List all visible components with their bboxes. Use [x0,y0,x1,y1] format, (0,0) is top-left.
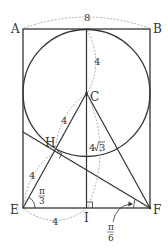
length-EH: 4 [29,170,35,181]
length-CH: 4 [61,115,67,126]
length-top-C: 4 [94,56,100,67]
point-F [149,207,151,209]
arrowhead-icon [129,202,134,207]
angle-arc-F [133,200,135,209]
angle-arc-E [29,198,35,209]
angle-E-denominator: 3 [39,196,45,206]
angle-label-F: π 6 [107,222,114,243]
angle-F-denominator: 6 [108,233,114,243]
angle-pointer-F [113,204,130,222]
label-H: H [45,136,55,150]
angle-F-numerator: π [108,222,114,232]
geometry-diagram: A B C H E F I 8 4 4 4 4 4 3 π 3 π 6 [0,0,168,252]
label-C: C [90,90,99,104]
length-CI: 4 3 [89,142,105,153]
length-CI-radicand: 3 [99,142,105,153]
length-AB: 8 [84,12,90,23]
label-B: B [153,22,162,36]
label-E: E [10,203,19,217]
angle-label-E: π 3 [38,186,45,206]
length-EI: 4 [52,216,58,227]
label-F: F [153,203,161,217]
length-CI-coef: 4 [89,142,95,153]
angle-E-numerator: π [39,186,45,196]
point-C [85,92,88,95]
label-I: I [84,211,89,225]
label-A: A [10,22,20,36]
